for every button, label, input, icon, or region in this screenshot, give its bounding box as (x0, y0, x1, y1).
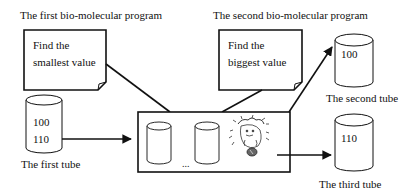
second-note-line1: Find the (228, 37, 264, 54)
first-tube-label: The first tube (21, 159, 80, 170)
connector-note1-to-box (106, 64, 170, 112)
second-program-title: The second bio-molecular program (213, 10, 368, 21)
inner-tube-2-cylinder-icon (195, 122, 219, 164)
inner-tube-1-cylinder-icon (147, 122, 171, 164)
first-program-title: The first bio-molecular program (20, 10, 162, 21)
second-tube-cylinder-icon (335, 34, 373, 87)
ellipsis: ... (182, 159, 190, 169)
third-tube-value: 110 (341, 133, 357, 144)
first-tube-value-1: 100 (33, 117, 50, 128)
second-note-line2: biggest value (228, 54, 286, 71)
third-tube-label: The third tube (319, 179, 381, 190)
second-tube-label: The second tube (326, 93, 398, 104)
first-note-line2: smallest value (33, 54, 96, 71)
first-note-line1: Find the (33, 37, 69, 54)
connector-note2-to-box (222, 90, 262, 112)
second-tube-value: 100 (341, 49, 358, 60)
first-tube-value-2: 110 (33, 134, 49, 145)
